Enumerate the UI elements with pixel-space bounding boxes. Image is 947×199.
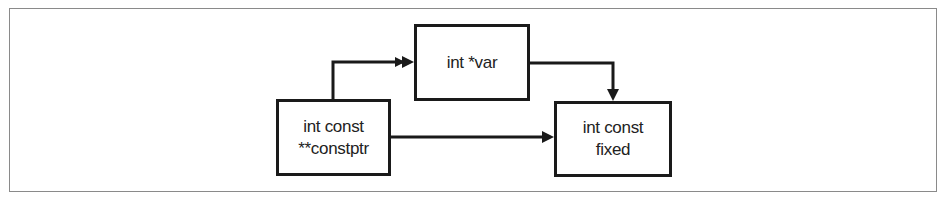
node-label-line: int const <box>298 116 369 138</box>
node-int-const-constptr: int const **constptr <box>276 99 391 176</box>
node-label-line: fixed <box>583 139 644 161</box>
node-label-line: **constptr <box>298 138 369 160</box>
node-int-var: int *var <box>414 24 530 101</box>
node-label: int const fixed <box>583 117 644 161</box>
node-int-const-fixed: int const fixed <box>554 101 672 177</box>
node-label: int *var <box>447 52 498 74</box>
node-label-line: int const <box>583 117 644 139</box>
node-label: int const **constptr <box>298 116 369 160</box>
node-label-line: int *var <box>447 52 498 74</box>
